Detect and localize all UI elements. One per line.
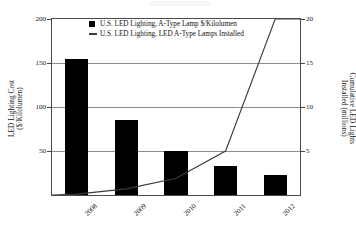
left-tick-label-150: 150: [20, 59, 46, 67]
legend-item-line: U.S. LED Lighting, LED A-Type Lamps Inst…: [89, 29, 244, 39]
right-tick-mark: [301, 63, 305, 64]
left-axis-title-line1: LED Lighting Cost: [8, 48, 16, 168]
right-axis-title-line2: Installed (millions): [340, 48, 348, 168]
left-tick-mark: [47, 19, 51, 20]
right-tick-mark: [301, 151, 305, 152]
right-tick-label-10: 10: [306, 103, 332, 111]
left-tick-mark: [47, 63, 51, 64]
left-tick-mark: [47, 151, 51, 152]
legend-item-bar-label: U.S. LED Lighting, A-Type Lamp $/Kilolum…: [100, 19, 237, 29]
right-tick-label-15: 15: [306, 59, 332, 67]
line-series: [52, 19, 300, 195]
left-tick-label-100: 100: [20, 103, 46, 111]
right-tick-label-20: 20: [306, 15, 332, 23]
left-tick-label-50: 50: [20, 147, 46, 155]
x-axis-label-2009: 2009: [133, 202, 149, 218]
x-axis-label-2008: 2008: [83, 202, 99, 218]
legend-line-swatch-icon: [89, 33, 97, 35]
legend-item-bar: U.S. LED Lighting, A-Type Lamp $/Kilolum…: [89, 19, 244, 29]
page-artifact: [150, 1, 210, 6]
line-series-path: [52, 19, 300, 195]
right-axis-title: Cumulative LED Lights Installed (million…: [340, 48, 356, 168]
plot-area: [51, 18, 301, 196]
legend-item-line-label: U.S. LED Lighting, LED A-Type Lamps Inst…: [100, 29, 244, 39]
x-axis-label-2012: 2012: [281, 202, 297, 218]
x-axis-label-2010: 2010: [182, 202, 198, 218]
right-tick-label-5: 5: [306, 147, 332, 155]
left-tick-mark: [47, 107, 51, 108]
legend-square-swatch-icon: [89, 21, 95, 27]
right-tick-mark: [301, 107, 305, 108]
left-tick-label-200: 200: [20, 15, 46, 23]
x-axis-label-2011: 2011: [232, 202, 247, 217]
chart-legend: U.S. LED Lighting, A-Type Lamp $/Kilolum…: [89, 19, 244, 39]
right-tick-mark: [301, 19, 305, 20]
right-axis-title-line1: Cumulative LED Lights: [348, 48, 356, 168]
